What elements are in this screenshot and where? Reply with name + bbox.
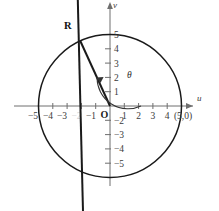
diagram-canvas: u v O −5 −4 −3 −2 −1 1 2 3 4 1 2 3 4 5 −… <box>0 0 219 211</box>
u-axis-arrowhead <box>186 103 193 109</box>
u-tick-minus1: −1 <box>86 111 96 121</box>
v-tick-minus3: −3 <box>114 130 124 140</box>
v-tick-minus2: −2 <box>114 116 124 126</box>
v-tick-1: 1 <box>114 87 119 97</box>
u-tick-3: 3 <box>151 111 156 121</box>
ray-to-point-r <box>80 41 110 106</box>
v-tick-4: 4 <box>114 44 119 54</box>
u-tick-2: 2 <box>136 111 141 121</box>
polar-diagram-figure: u v O −5 −4 −3 −2 −1 1 2 3 4 1 2 3 4 5 −… <box>0 0 219 211</box>
u-tick-minus5: −5 <box>28 111 38 121</box>
u-tick-minus2: −2 <box>71 111 81 121</box>
v-tick-3: 3 <box>114 59 119 69</box>
u-tick-4: 4 <box>165 111 170 121</box>
origin-label: O <box>101 109 109 120</box>
v-tick-2: 2 <box>114 73 119 83</box>
u-tick-minus4: −4 <box>43 111 53 121</box>
v-axis-label: v <box>113 0 117 10</box>
v-tick-5: 5 <box>114 30 119 40</box>
u-axis-label: u <box>197 93 202 103</box>
point-r-label: R <box>64 20 72 31</box>
circle-x-intercept-label: (5,0) <box>174 111 192 122</box>
v-tick-minus5: −5 <box>114 159 124 169</box>
angle-theta-label: θ <box>127 70 132 80</box>
v-tick-minus4: −4 <box>114 144 124 154</box>
u-tick-minus3: −3 <box>57 111 67 121</box>
